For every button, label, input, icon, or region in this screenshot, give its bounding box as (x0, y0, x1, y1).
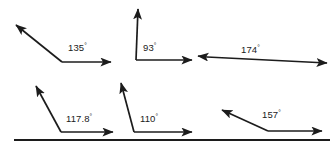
angle-135-label: 135° (68, 42, 87, 54)
angle-117-8-label: 117.8° (66, 113, 93, 125)
angle-174-ray-left (198, 56, 207, 57)
angle-117-8-ray-upleft (36, 86, 61, 132)
angle-174-group: 174° (198, 44, 327, 64)
angle-93-label: 93° (143, 42, 157, 54)
angle-135-ray-upleft (16, 25, 62, 62)
angle-174-label: 174° (241, 44, 260, 56)
angle-93-ray-up (136, 9, 138, 60)
angle-117-8-group: 117.8° (36, 86, 113, 132)
angle-110-label: 110° (140, 113, 158, 125)
angle-174-ray-right (207, 57, 327, 63)
angle-diagram-figure: 135° 93° 174° 117.8° (0, 0, 336, 151)
angle-110-group: 110° (121, 83, 192, 132)
angle-110-ray-upleft (121, 83, 134, 132)
angle-135-group: 135° (16, 25, 111, 62)
angle-93-group: 93° (136, 9, 192, 60)
angle-157-group: 157° (222, 109, 322, 132)
angle-157-label: 157° (262, 109, 281, 121)
angle-diagram-canvas: 135° 93° 174° 117.8° (0, 0, 336, 151)
